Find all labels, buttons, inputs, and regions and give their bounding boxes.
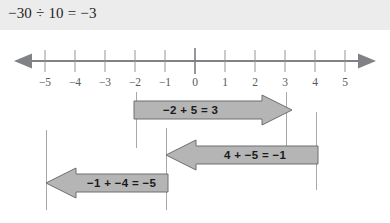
tick-label--1: −1 — [155, 76, 175, 88]
tick-label-0: 0 — [185, 76, 205, 88]
number-line-diagram: −30 ÷ 10 = −3 −5−4−3−2−1012345 −2 + 5 = … — [0, 0, 390, 223]
tick-label--2: −2 — [125, 76, 145, 88]
tick-label-2: 2 — [245, 76, 265, 88]
arrow-block-3: −1 + −4 = −5 — [46, 168, 168, 198]
arrow-equation-1: −2 + 5 = 3 — [163, 95, 218, 125]
tick-label--4: −4 — [65, 76, 85, 88]
arrow-block-2: 4 + −5 = −1 — [166, 140, 318, 170]
axis-left-arrowhead — [14, 54, 32, 69]
arrow-equation-2: 4 + −5 = −1 — [224, 140, 286, 170]
tick-label-5: 5 — [335, 76, 355, 88]
tick-label-4: 4 — [305, 76, 325, 88]
tick-label--5: −5 — [35, 76, 55, 88]
tick-label-3: 3 — [275, 76, 295, 88]
header-equation: −30 ÷ 10 = −3 — [8, 5, 97, 22]
arrow-equation-3: −1 + −4 = −5 — [87, 168, 156, 198]
axis-right-arrowhead — [358, 54, 376, 69]
tick-label-1: 1 — [215, 76, 235, 88]
arrow-block-1: −2 + 5 = 3 — [134, 95, 292, 125]
tick-label--3: −3 — [95, 76, 115, 88]
